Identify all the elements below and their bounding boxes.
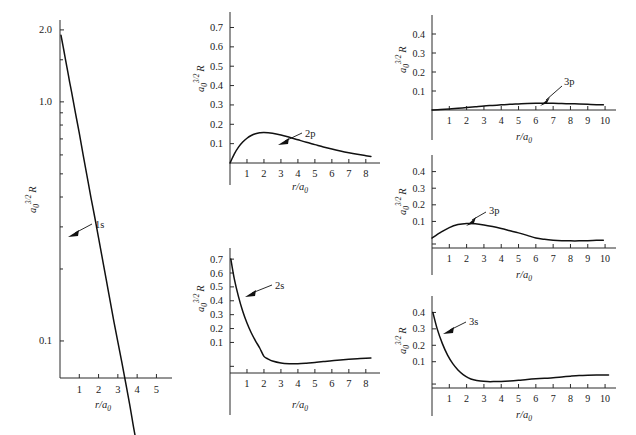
curve-label-2s: 2s	[275, 280, 284, 291]
x-tick-label: 5	[154, 384, 159, 395]
x-tick-label: 1	[447, 253, 452, 264]
y-tick-label: 0.1	[413, 86, 426, 97]
y-tick-label: 0.4	[413, 29, 426, 40]
y-tick-label: 0.1	[210, 138, 223, 149]
y-axis-title-3s: a03/2R	[395, 327, 411, 354]
x-tick-label: 10	[600, 253, 610, 264]
x-tick-label: 8	[363, 378, 368, 389]
y-tick-label: 2.0	[39, 24, 52, 35]
panel-2p-xtick-labels: 12345678	[244, 168, 368, 179]
x-tick-label: 2	[464, 253, 469, 264]
y-tick-label: 0.4	[413, 166, 426, 177]
x-tick-label: 3	[481, 393, 486, 404]
panel-3p-top-svg: 0.10.20.30.4 12345678910 3p a03/2R r/a0	[390, 0, 636, 150]
panel-3s: 0.10.20.30.4 12345678910 3s a03/2R r/a0	[390, 288, 636, 435]
x-tick-label: 3	[481, 253, 486, 264]
x-tick-label: 9	[585, 253, 590, 264]
y-tick-label: 0.3	[210, 99, 223, 110]
x-tick-label: 8	[568, 115, 573, 126]
svg-text:r/a0: r/a0	[292, 399, 308, 413]
panel-2p-ytick-labels: 0.10.20.30.40.50.60.7	[210, 22, 224, 149]
svg-text:a03/2R: a03/2R	[395, 327, 411, 354]
x-tick-label: 7	[346, 378, 351, 389]
svg-text:r/a0: r/a0	[516, 269, 532, 283]
y-tick-label: 0.2	[210, 323, 223, 334]
x-axis-title-3s: r/a0	[516, 409, 532, 423]
x-axis-title-2p: r/a0	[292, 181, 308, 195]
panel-1s-ytick-labels: 2.01.00.1	[39, 24, 52, 346]
y-tick-label: 0.4	[210, 80, 224, 91]
x-tick-label: 4	[499, 253, 504, 264]
x-tick-label: 3	[481, 115, 486, 126]
x-tick-label: 1	[447, 393, 452, 404]
x-tick-label: 7	[346, 168, 351, 179]
arrowhead-3s	[443, 327, 454, 334]
panel-1s-yticks	[60, 30, 64, 341]
panel-2p: 0.10.20.30.40.50.60.7 12345678 2p a03/2R…	[190, 0, 390, 200]
panel-2s-svg: 0.10.20.30.40.50.60.7 12345678 2s a03/2R…	[190, 240, 390, 435]
x-tick-label: 5	[516, 393, 521, 404]
y-axis-title-2p: a03/2R	[193, 65, 209, 92]
svg-text:r/a0: r/a0	[516, 409, 532, 423]
x-tick-label: 3	[115, 384, 120, 395]
x-tick-label: 4	[499, 115, 504, 126]
x-tick-label: 4	[135, 384, 141, 395]
x-axis-title-3p-mid: r/a0	[516, 269, 532, 283]
curve-label-3s: 3s	[469, 316, 478, 327]
x-tick-label: 5	[312, 168, 317, 179]
curve-2s	[231, 259, 371, 364]
svg-text:a03/2R: a03/2R	[395, 46, 411, 73]
panel-2s-axes	[230, 248, 380, 415]
y-tick-label: 0.1	[39, 335, 52, 346]
x-tick-label: 3	[278, 168, 283, 179]
x-tick-label: 6	[533, 253, 538, 264]
y-axis-title-2s: a03/2R	[193, 285, 209, 312]
annotation-2s: 2s	[245, 280, 284, 297]
arrowhead-2p	[278, 138, 289, 145]
x-tick-label: 2	[261, 168, 266, 179]
annotation-2p: 2p	[278, 128, 316, 145]
panel-2s-ytick-labels: 0.10.20.30.40.50.60.7	[210, 254, 224, 348]
curve-label-3p-mid: 3p	[489, 205, 500, 216]
x-tick-label: 6	[329, 168, 334, 179]
y-tick-label: 0.1	[413, 356, 426, 367]
x-tick-label: 1	[77, 384, 82, 395]
annotation-3p-mid: 3p	[466, 205, 500, 226]
panel-1s: 2.01.00.1 12345 1s a03/2R r/a0	[0, 0, 190, 435]
panel-1s-axes	[60, 20, 172, 378]
panel-2p-yticks	[230, 27, 234, 143]
x-tick-label: 5	[516, 115, 521, 126]
y-tick-label: 0.6	[210, 268, 223, 279]
x-tick-label: 6	[329, 378, 334, 389]
panel-2s-xticks	[247, 369, 366, 373]
y-tick-label: 0.2	[413, 199, 426, 210]
x-tick-label: 2	[464, 393, 469, 404]
svg-text:r/a0: r/a0	[516, 131, 532, 145]
curve-label-2p: 2p	[305, 128, 316, 139]
x-tick-label: 7	[551, 253, 556, 264]
panel-3p-mid: 0.10.20.30.4 12345678910 3p a03/2R r/a0	[390, 150, 636, 290]
y-tick-label: 0.4	[210, 295, 224, 306]
arrowhead-3p-mid	[466, 217, 476, 226]
x-tick-label: 1	[447, 115, 452, 126]
panel-3p-mid-yticks	[432, 172, 436, 244]
x-tick-label: 4	[295, 378, 301, 389]
curve-label-3p-top: 3p	[564, 76, 575, 87]
panel-1s-xtick-labels: 12345	[77, 384, 159, 395]
x-tick-label: 9	[585, 393, 590, 404]
curve-3p-mid	[432, 223, 603, 241]
y-tick-label: 0.3	[413, 48, 426, 59]
x-tick-label: 7	[551, 393, 556, 404]
y-tick-label: 0.3	[210, 309, 223, 320]
x-tick-label: 2	[464, 115, 469, 126]
y-tick-label: 0.7	[210, 254, 223, 265]
panel-2p-xticks	[247, 159, 366, 163]
panel-2s-xtick-labels: 12345678	[244, 378, 368, 389]
x-tick-label: 2	[96, 384, 101, 395]
y-tick-label: 0.5	[210, 61, 223, 72]
x-tick-label: 1	[244, 168, 249, 179]
y-tick-label: 0.3	[413, 183, 426, 194]
y-tick-label: 1.0	[39, 96, 52, 107]
svg-text:a03/2R: a03/2R	[193, 285, 209, 312]
x-axis-title-1s: r/a0	[95, 399, 111, 413]
